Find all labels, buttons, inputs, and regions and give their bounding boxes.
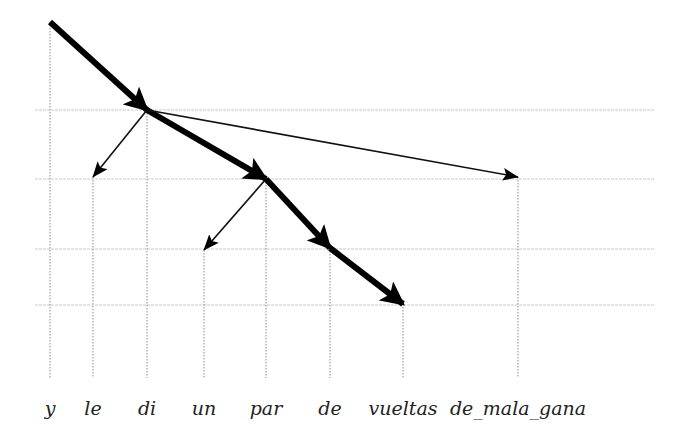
arrow-par-to-un	[204, 179, 266, 250]
dependency-tree-diagram: ylediunpardevueltasde_mala_gana	[0, 0, 683, 438]
arrow-y-to-di	[50, 22, 147, 110]
arrow-de-to-vueltas	[330, 248, 403, 304]
arrow-di-to-le	[93, 110, 147, 177]
arrow-par-to-de	[266, 179, 330, 248]
word-di: di	[138, 397, 156, 419]
word-de_mala_gana: de_mala_gana	[450, 397, 586, 420]
word-vueltas: vueltas	[368, 397, 437, 419]
word-un: un	[192, 397, 216, 419]
level-gridlines	[35, 110, 655, 305]
word-y: y	[44, 397, 56, 419]
word-de: de	[318, 397, 341, 419]
word-par: par	[250, 397, 284, 419]
word-le: le	[84, 397, 101, 419]
dependency-arcs	[50, 22, 518, 304]
word-labels: ylediunpardevueltasde_mala_gana	[44, 397, 586, 420]
